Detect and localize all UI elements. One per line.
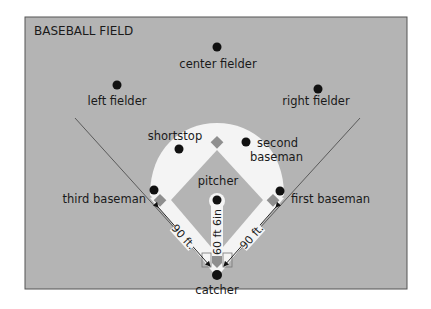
center-fielder-label: center fielder bbox=[179, 57, 257, 71]
third-baseman-dot bbox=[150, 186, 159, 195]
shortstop-label: shortstop bbox=[148, 129, 202, 143]
second-baseman-label-line2: baseman bbox=[250, 150, 303, 164]
right-fielder-dot bbox=[314, 85, 323, 94]
catcher-label: catcher bbox=[195, 283, 239, 297]
left-fielder-label: left fielder bbox=[88, 94, 147, 108]
second-baseman-dot bbox=[242, 138, 251, 147]
baseball-field-diagram: 90 ft. 90 ft. 60 ft 6in BASEBALL FIELD c… bbox=[0, 0, 431, 309]
pitcher-label: pitcher bbox=[198, 174, 239, 188]
pitcher-dot bbox=[213, 196, 222, 205]
left-fielder-dot bbox=[113, 81, 122, 90]
first-baseman-label: first baseman bbox=[291, 192, 370, 206]
catcher-dot bbox=[212, 270, 222, 280]
pitching-distance-label: 60 ft 6in bbox=[211, 209, 224, 255]
first-baseman-dot bbox=[276, 187, 285, 196]
third-baseman-label: third baseman bbox=[63, 192, 146, 206]
second-baseman-label-line1: second bbox=[257, 136, 298, 150]
right-fielder-label: right fielder bbox=[282, 94, 350, 108]
diagram-title: BASEBALL FIELD bbox=[34, 24, 133, 38]
center-fielder-dot bbox=[213, 43, 222, 52]
shortstop-dot bbox=[175, 145, 184, 154]
